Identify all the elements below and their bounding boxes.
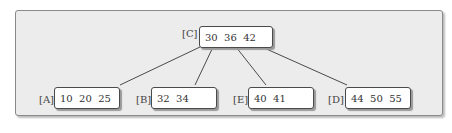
node-a: 10 20 25: [54, 87, 120, 109]
node-e: 40 41: [248, 87, 314, 109]
node-a-label: [A]: [39, 94, 54, 106]
node-b-label: [B]: [136, 94, 151, 106]
edge-c-b: [195, 47, 213, 85]
node-d-label: [D]: [328, 94, 344, 106]
tree-edges: [0, 0, 452, 133]
edge-c-a: [120, 47, 200, 85]
node-e-label: [E]: [233, 94, 248, 106]
edge-c-e: [236, 47, 266, 85]
node-b: 32 34: [151, 87, 217, 109]
node-c: 30 36 42: [199, 26, 273, 48]
node-c-label: [C]: [182, 28, 197, 40]
edge-c-d: [262, 47, 347, 85]
node-d: 44 50 55: [345, 87, 411, 109]
